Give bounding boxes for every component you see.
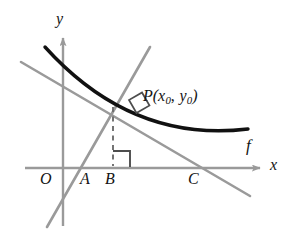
point-a-label: A [80, 171, 90, 187]
diagram-canvas [0, 0, 290, 237]
point-p-close-paren: ) [192, 87, 197, 104]
point-p-comma: , [171, 87, 176, 104]
x-axis-label: x [270, 157, 277, 173]
point-c-label: C [188, 171, 199, 187]
function-label: f [246, 137, 251, 154]
point-p-name: P [143, 87, 153, 104]
point-p-y: y [180, 87, 187, 104]
point-p-label: P(x0, y0) [143, 88, 198, 106]
right-angle-marker-at-b [113, 151, 130, 167]
tangent-line [21, 62, 250, 196]
point-b-label: B [105, 171, 115, 187]
y-axis-label: y [56, 11, 63, 27]
origin-label: O [40, 171, 52, 187]
figure-container: y x O A B C f P(x0, y0) [0, 0, 290, 237]
